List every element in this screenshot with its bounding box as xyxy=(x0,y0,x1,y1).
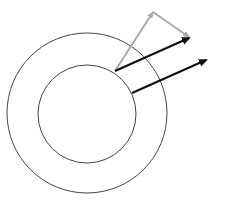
inner-circle xyxy=(38,65,136,163)
black-resultant-arrow-2-icon xyxy=(132,60,206,93)
arrows-group xyxy=(115,12,206,93)
gray-component-arrow-2-icon xyxy=(153,12,189,37)
diagram-canvas xyxy=(0,0,227,208)
outer-circle xyxy=(7,33,167,193)
circles-group xyxy=(7,33,167,193)
